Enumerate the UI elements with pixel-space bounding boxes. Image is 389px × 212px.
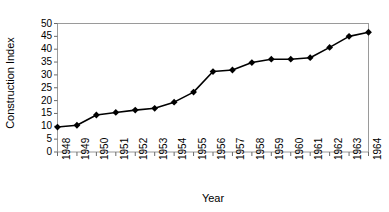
x-tick-label: 1961 [314, 138, 324, 160]
x-tick-label: 1959 [275, 138, 285, 160]
x-tick-label: 1958 [256, 138, 266, 160]
construction-index-line-chart: Construction Index 05101520253035404550 … [0, 0, 389, 212]
x-tick-label: 1948 [62, 138, 72, 160]
x-tick-label: 1953 [159, 138, 169, 160]
x-tick-label: 1951 [120, 138, 130, 160]
x-tick-label: 1950 [100, 138, 110, 160]
x-tick-label: 1963 [353, 138, 363, 160]
x-tick-label: 1960 [295, 138, 305, 160]
x-tick-label: 1949 [81, 138, 91, 160]
x-axis-title: Year [57, 191, 369, 205]
x-tick-label: 1954 [178, 138, 188, 160]
x-axis-tick-labels: 1948194919501951195219531954195519561957… [0, 0, 389, 212]
x-tick-label: 1957 [236, 138, 246, 160]
x-tick-label: 1955 [198, 138, 208, 160]
x-tick-label: 1964 [373, 138, 383, 160]
x-tick-label: 1952 [139, 138, 149, 160]
x-tick-label: 1962 [334, 138, 344, 160]
x-tick-label: 1956 [217, 138, 227, 160]
